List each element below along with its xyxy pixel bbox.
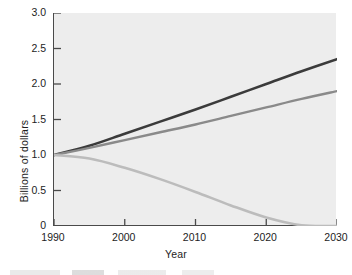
axis-tick-marks [54,13,337,226]
y-tick-label: 0.5 [0,185,46,196]
x-axis-tick-labels: 19902000201020202030 [0,231,352,247]
x-tick-label: 2000 [112,231,135,243]
line-series-medium-gray [54,91,337,155]
y-tick-label: 2.5 [0,43,46,54]
line-series-dark [54,59,337,155]
data-series-group [54,59,337,226]
y-tick-label: 3.0 [0,7,46,18]
x-tick-label: 2010 [183,231,206,243]
chart-figure: Billions of dollars 00.51.01.52.02.53.0 … [0,0,352,275]
x-tick-label: 2030 [324,231,347,243]
plot-lines-svg [54,13,337,226]
y-tick-label: 2.0 [0,78,46,89]
x-tick-label: 2020 [254,231,277,243]
y-tick-label: 1.5 [0,114,46,125]
y-tick-label: 1.0 [0,149,46,160]
plot-area [53,13,336,226]
x-tick-label: 1990 [41,231,64,243]
page-scan-artifact [0,270,352,275]
line-series-light-gray [54,155,337,226]
y-tick-label: 0 [0,220,46,231]
x-axis-title: Year [0,248,352,260]
